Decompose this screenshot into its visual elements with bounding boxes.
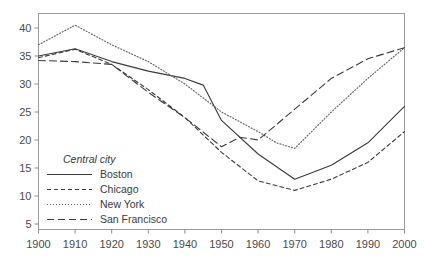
x-axis-ticks: 1900191019201930194019501960197019801990… — [26, 230, 416, 250]
y-tick-label: 30 — [19, 78, 31, 90]
y-tick-label: 35 — [19, 50, 31, 62]
x-tick-label: 1950 — [209, 238, 233, 250]
legend-label-chicago: Chicago — [100, 183, 139, 195]
legend-items: BostonChicagoNew YorkSan Francisco — [47, 168, 167, 225]
x-tick-label: 1980 — [319, 238, 343, 250]
x-tick-label: 1920 — [99, 238, 123, 250]
y-tick-label: 5 — [25, 218, 31, 230]
y-tick-label: 20 — [19, 134, 31, 146]
x-tick-label: 1940 — [173, 238, 197, 250]
line-chart: 510152025303540 190019101920193019401950… — [0, 0, 424, 263]
series-line-san-francisco — [39, 48, 405, 147]
x-tick-label: 1900 — [26, 238, 50, 250]
y-axis-ticks: 510152025303540 — [19, 22, 38, 230]
data-series-layer — [39, 25, 405, 190]
x-tick-label: 2000 — [392, 238, 416, 250]
y-tick-label: 10 — [19, 190, 31, 202]
plot-border — [39, 14, 405, 230]
y-tick-label: 15 — [19, 162, 31, 174]
y-tick-label: 25 — [19, 106, 31, 118]
series-line-new-york — [39, 25, 405, 148]
chart-canvas: 510152025303540 190019101920193019401950… — [0, 0, 424, 263]
legend-label-new-york: New York — [100, 198, 145, 210]
x-tick-label: 1930 — [136, 238, 160, 250]
x-tick-label: 1970 — [282, 238, 306, 250]
x-tick-label: 1960 — [246, 238, 270, 250]
y-tick-label: 40 — [19, 22, 31, 34]
x-tick-label: 1910 — [63, 238, 87, 250]
chart-legend: Central city BostonChicagoNew YorkSan Fr… — [47, 153, 167, 225]
x-tick-label: 1990 — [356, 238, 380, 250]
legend-label-boston: Boston — [100, 168, 133, 180]
legend-title: Central city — [63, 153, 116, 165]
legend-label-san-francisco: San Francisco — [100, 213, 167, 225]
plot-frame — [39, 14, 405, 230]
